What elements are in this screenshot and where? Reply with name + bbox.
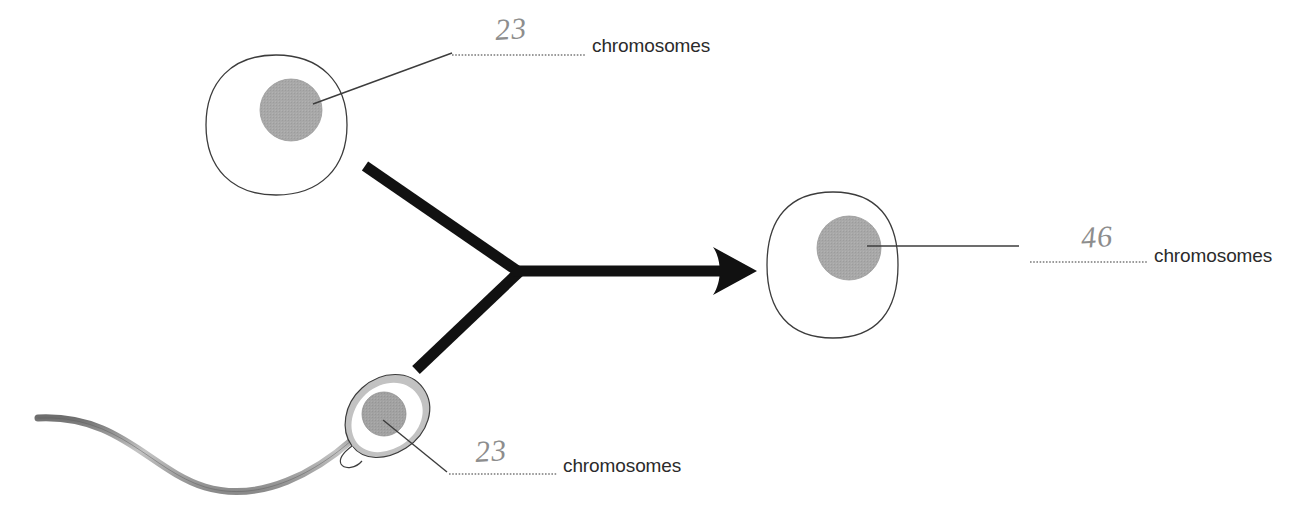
label-bottom-chromosomes: chromosomes xyxy=(563,456,681,475)
fertilization-arrow xyxy=(365,166,757,370)
label-bottom-value: 23 xyxy=(474,435,508,467)
arrow-branch-lower xyxy=(416,272,519,370)
egg-cell xyxy=(206,55,347,195)
sperm-tail xyxy=(38,418,352,492)
sperm-cell xyxy=(38,375,430,492)
egg-cell-nucleus xyxy=(260,79,322,141)
zygote-cell-nucleus xyxy=(817,216,881,280)
sperm-cell-nucleus xyxy=(362,392,406,436)
leader-line-egg xyxy=(313,53,452,104)
fertilization-diagram: chromosomes 23 chromosomes 46 chromosome… xyxy=(0,0,1309,527)
arrow-branch-upper xyxy=(365,166,519,272)
label-right-value: 46 xyxy=(1080,221,1114,253)
label-right-chromosomes: chromosomes xyxy=(1154,246,1272,265)
zygote-cell xyxy=(767,192,898,338)
diagram-canvas xyxy=(0,0,1309,527)
label-top-chromosomes: chromosomes xyxy=(592,36,710,55)
label-top-value: 23 xyxy=(494,13,528,45)
